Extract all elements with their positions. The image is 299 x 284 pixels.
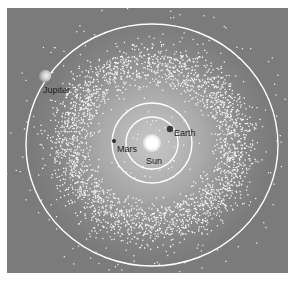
mars-icon	[112, 139, 116, 143]
diagram-canvas	[7, 8, 288, 273]
sun-icon	[143, 134, 161, 152]
earth-label: Earth	[174, 129, 196, 138]
jupiter-label: Jupiter	[43, 86, 70, 95]
solar-system-diagram: Jupiter Mars Earth Sun	[7, 8, 288, 273]
earth-icon	[167, 126, 173, 132]
sun-label: Sun	[146, 157, 162, 166]
mars-label: Mars	[117, 145, 137, 154]
